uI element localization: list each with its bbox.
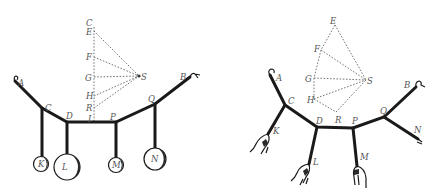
- right-label-q: Q: [380, 106, 387, 116]
- right-label-g: G: [305, 74, 312, 84]
- right-label-k: K: [272, 126, 280, 136]
- right-label-b: B: [403, 80, 410, 90]
- right-label-a: A: [275, 73, 282, 83]
- label-a: A: [17, 78, 24, 88]
- right-label-e: E: [329, 16, 337, 26]
- right-label-r-bottom: R: [334, 115, 342, 125]
- label-h: H: [85, 91, 94, 101]
- label-p: P: [109, 112, 116, 122]
- label-n: N: [150, 154, 159, 164]
- right-label-h: H: [306, 95, 315, 105]
- left-hook-b-icon: [190, 73, 200, 78]
- label-i: I: [87, 114, 92, 124]
- right-label-n: N: [413, 125, 422, 135]
- right-label-f: F: [313, 44, 321, 54]
- label-d: D: [65, 111, 73, 121]
- right-label-d: D: [315, 116, 323, 126]
- hand-k-icon: [250, 134, 269, 154]
- right-label-s: S: [367, 76, 373, 86]
- label-m: M: [111, 160, 121, 170]
- label-f: F: [85, 52, 93, 62]
- right-figure: A C D R P Q B N K L M E F G H S: [250, 16, 425, 188]
- label-c: C: [45, 103, 52, 113]
- label-l: L: [61, 162, 68, 172]
- left-force-polygon: [94, 27, 141, 121]
- label-q: Q: [148, 94, 155, 104]
- label-g: G: [85, 73, 92, 83]
- right-string-n: [384, 117, 418, 139]
- label-r: R: [85, 103, 93, 113]
- right-hook-a-icon: [269, 69, 274, 75]
- label-k: K: [37, 159, 45, 169]
- funicular-diagrams: A C D P Q B K L M N C E F G H R S I: [0, 0, 438, 192]
- label-b: B: [179, 72, 186, 82]
- hand-m-icon: [353, 166, 366, 188]
- right-label-c: C: [288, 96, 295, 106]
- label-s: S: [141, 72, 147, 82]
- right-string-m: [353, 128, 357, 166]
- right-label-m: M: [359, 152, 369, 162]
- right-label-l: L: [312, 157, 319, 167]
- left-figure: A C D P Q B K L M N C E F G H R S I: [14, 18, 200, 180]
- right-label-p: P: [351, 116, 358, 126]
- right-force-polygon: [314, 25, 366, 112]
- hand-l-icon: [291, 164, 310, 185]
- label-e: E: [85, 27, 93, 37]
